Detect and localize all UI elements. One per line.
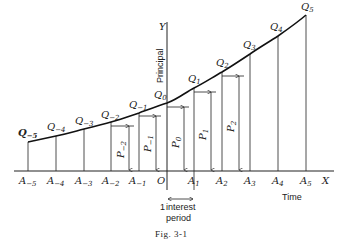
svg-text:Q1: Q1 xyxy=(188,73,201,86)
q-labels: Q−5 Q−4 Q−3 Q−2 Q−1 Q0 Q1 Q2 Q3 Q4 Q5 xyxy=(18,1,314,140)
svg-text:A−3: A−3 xyxy=(74,175,93,188)
a-labels: A−5 A−4 A−3 A−2 A−1 O A1 A2 A3 A4 A5 xyxy=(18,175,312,188)
interest-period-label-line2: period xyxy=(166,213,191,223)
y-axis-title: Principal xyxy=(155,48,165,83)
principal-arrows xyxy=(111,76,244,170)
svg-text:Q−4: Q−4 xyxy=(47,121,66,134)
svg-text:A3: A3 xyxy=(243,175,256,188)
svg-text:Q0: Q0 xyxy=(154,89,167,102)
svg-text:A5: A5 xyxy=(299,175,312,188)
svg-text:P0: P0 xyxy=(170,136,183,149)
svg-text:P1: P1 xyxy=(197,129,210,141)
svg-text:A2: A2 xyxy=(215,175,228,188)
svg-text:P−1: P−1 xyxy=(142,135,155,153)
svg-text:Q2: Q2 xyxy=(216,57,229,70)
svg-text:Q−3: Q−3 xyxy=(75,115,94,128)
svg-text:Q−2: Q−2 xyxy=(101,109,120,122)
compound-interest-diagram: P−2 P−1 P0 P1 P2 Q−5 Q−4 Q−3 Q−2 Q−1 Q0 … xyxy=(0,0,348,250)
svg-text:A−5: A−5 xyxy=(18,175,37,188)
svg-text:Q3: Q3 xyxy=(243,39,256,52)
svg-text:Q4: Q4 xyxy=(270,21,283,34)
svg-text:A−4: A−4 xyxy=(46,175,65,188)
figure-caption: Fig. 3-1 xyxy=(155,229,188,239)
svg-text:Q−5: Q−5 xyxy=(18,127,38,140)
svg-text:A−2: A−2 xyxy=(101,175,120,188)
interest-period-label: 1interest xyxy=(160,202,196,212)
svg-text:Q−1: Q−1 xyxy=(129,99,148,112)
svg-text:P2: P2 xyxy=(225,120,238,133)
svg-text:A4: A4 xyxy=(271,175,284,188)
x-axis-letter: X xyxy=(321,175,330,186)
origin-label: O xyxy=(157,175,165,186)
svg-text:P−2: P−2 xyxy=(115,140,128,159)
svg-text:A1: A1 xyxy=(187,175,200,188)
svg-text:A−1: A−1 xyxy=(128,175,147,188)
y-axis-letter: Y xyxy=(159,21,167,32)
x-axis-title: Time xyxy=(282,192,302,202)
svg-text:Q5: Q5 xyxy=(301,1,314,14)
